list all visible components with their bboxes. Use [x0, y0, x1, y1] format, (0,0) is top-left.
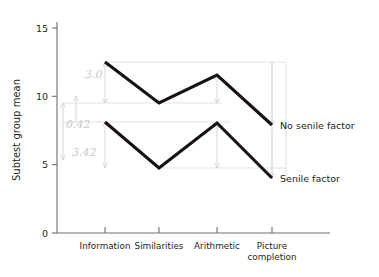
- series-line-senile-factor: [105, 122, 272, 178]
- y-tick-label-15: 15: [36, 23, 48, 34]
- annotation-3-42: 3.42: [72, 146, 97, 159]
- y-tick-label-10: 10: [36, 91, 48, 102]
- series-line-no-senile-factor: [105, 62, 272, 125]
- line-chart: 0 5 10 15 Subtest group mean Information…: [0, 0, 379, 277]
- x-label-similarities: Similarities: [135, 241, 184, 251]
- annotation-0-42: 0.42: [66, 118, 91, 131]
- y-tick-label-0: 0: [42, 228, 48, 239]
- x-label-information: Information: [80, 241, 131, 251]
- series-label-no-senile-factor: No senile factor: [280, 120, 355, 131]
- y-axis-title: Subtest group mean: [11, 79, 22, 181]
- x-label-completion: completion: [247, 252, 296, 262]
- annotation-3-0: 3.0: [85, 68, 103, 81]
- y-tick-label-5: 5: [42, 159, 48, 170]
- chart-container: 0 5 10 15 Subtest group mean Information…: [0, 0, 379, 277]
- x-label-picture: Picture: [257, 241, 287, 251]
- series-label-senile-factor: Senile factor: [280, 173, 340, 184]
- x-label-arithmetic: Arithmetic: [194, 241, 240, 251]
